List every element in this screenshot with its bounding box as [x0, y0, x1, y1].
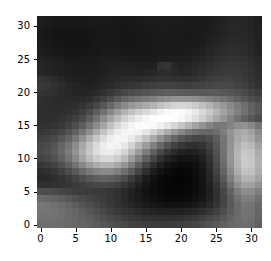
- x-tick-mark: [251, 228, 252, 232]
- x-tick-label: 10: [104, 233, 117, 244]
- x-tick-label: 5: [72, 233, 78, 244]
- grayscale-image: [37, 16, 262, 228]
- x-tick-label: 20: [175, 233, 188, 244]
- x-tick-label: 15: [140, 233, 153, 244]
- x-tick-label: 30: [245, 233, 258, 244]
- x-tick-mark: [41, 228, 42, 232]
- y-tick-mark: [34, 26, 38, 27]
- x-tick-mark: [146, 228, 147, 232]
- y-tick-mark: [34, 225, 38, 226]
- y-tick-mark: [34, 59, 38, 60]
- matplotlib-figure: 051015202530 051015202530: [0, 0, 271, 261]
- x-tick-mark: [76, 228, 77, 232]
- y-tick-mark: [34, 92, 38, 93]
- x-tick-mark: [216, 228, 217, 232]
- y-tick-mark: [34, 192, 38, 193]
- x-tick-label: 0: [37, 233, 43, 244]
- x-tick-label: 25: [210, 233, 223, 244]
- image-axes: [37, 16, 262, 228]
- x-tick-mark: [111, 228, 112, 232]
- y-tick-mark: [34, 158, 38, 159]
- x-tick-mark: [181, 228, 182, 232]
- y-tick-mark: [34, 125, 38, 126]
